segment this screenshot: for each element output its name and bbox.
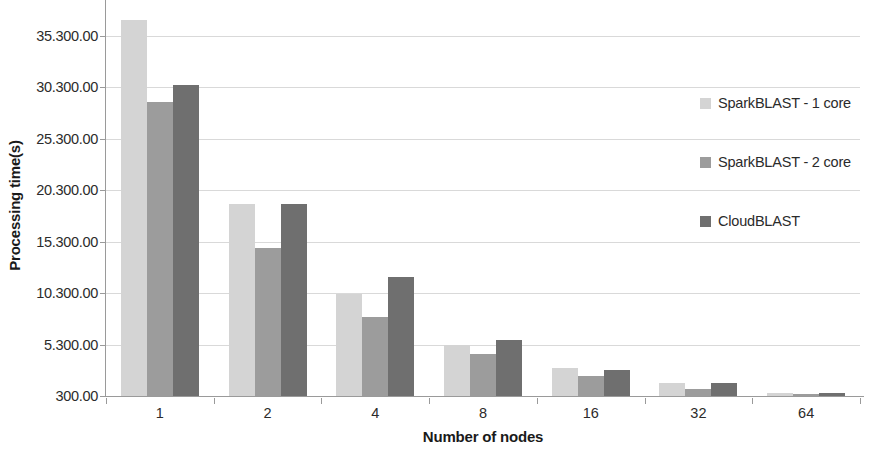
x-axis-tick: [106, 398, 107, 404]
x-axis-tick-label: 2: [228, 405, 308, 421]
bar: [281, 204, 307, 396]
bar: [711, 383, 737, 396]
legend-swatch-icon: [700, 216, 711, 227]
y-axis-tick-label: 35.300.00: [24, 28, 98, 44]
bar-group: [537, 8, 645, 396]
bar: [496, 340, 522, 396]
y-axis-tick-label: 5.300.00: [24, 337, 98, 353]
bar: [121, 20, 147, 396]
bar: [336, 294, 362, 396]
x-axis-tick-label: 4: [335, 405, 415, 421]
legend-swatch-icon: [700, 98, 711, 109]
x-axis-tick: [321, 398, 322, 404]
x-axis-tick-label: 32: [658, 405, 738, 421]
x-axis-tick: [537, 398, 538, 404]
bar: [388, 277, 414, 396]
legend-item: CloudBLAST: [700, 204, 874, 238]
x-axis-tick-labels: 1248163264: [106, 398, 860, 426]
y-axis-title-text: Processing time(s): [6, 140, 23, 271]
bar-group: [321, 8, 429, 396]
bar-group: [214, 8, 322, 396]
bar: [578, 376, 604, 396]
bar-chart-figure: Processing time(s) 300.005.300.0010.300.…: [0, 0, 874, 454]
bar: [229, 204, 255, 396]
x-axis-tick: [645, 398, 646, 404]
bar: [362, 317, 388, 396]
legend-label: CloudBLAST: [718, 213, 800, 229]
y-axis-tick-label: 300.00: [24, 388, 98, 404]
x-axis-tick-label: 64: [766, 405, 846, 421]
bar: [147, 102, 173, 396]
y-axis-tick-label: 20.300.00: [24, 182, 98, 198]
bar: [552, 368, 578, 396]
y-axis-tick-label: 15.300.00: [24, 234, 98, 250]
bar: [604, 370, 630, 396]
legend-label: SparkBLAST - 1 core: [718, 95, 851, 111]
x-axis-tick: [860, 398, 861, 404]
bar: [444, 345, 470, 396]
bar: [659, 383, 685, 396]
legend-swatch-icon: [700, 157, 711, 168]
x-axis-title: Number of nodes: [106, 428, 860, 445]
bar-group: [106, 8, 214, 396]
x-axis-tick: [429, 398, 430, 404]
x-axis-tick: [214, 398, 215, 404]
legend-item: SparkBLAST - 1 core: [700, 86, 874, 120]
bar: [685, 389, 711, 396]
bar: [173, 85, 199, 396]
legend-label: SparkBLAST - 2 core: [718, 154, 851, 170]
legend-item: SparkBLAST - 2 core: [700, 145, 874, 179]
y-axis-tick-label: 30.300.00: [24, 79, 98, 95]
x-axis-tick-label: 1: [120, 405, 200, 421]
y-axis-tick-labels: 300.005.300.0010.300.0015.300.0020.300.0…: [26, 0, 104, 410]
x-axis-tick-label: 16: [551, 405, 631, 421]
bar: [470, 354, 496, 396]
chart-legend: SparkBLAST - 1 coreSparkBLAST - 2 coreCl…: [700, 86, 874, 263]
x-axis-tick-label: 8: [443, 405, 523, 421]
bar: [255, 248, 281, 396]
y-axis-tick-label: 25.300.00: [24, 131, 98, 147]
y-axis-tick-label: 10.300.00: [24, 285, 98, 301]
x-axis-tick: [752, 398, 753, 404]
bar-group: [429, 8, 537, 396]
x-axis-line: [100, 396, 864, 397]
